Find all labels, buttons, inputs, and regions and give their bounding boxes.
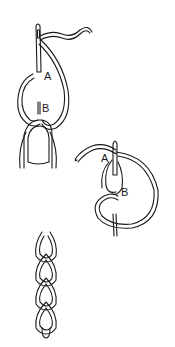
thread-loop-outer — [41, 40, 69, 129]
needle-tip-b — [113, 214, 117, 236]
figure-result-chain — [36, 232, 57, 338]
label-a: A — [101, 152, 109, 164]
label-a: A — [44, 70, 52, 82]
needle-tip-b — [38, 102, 40, 114]
thread-tail — [40, 27, 92, 36]
figure-step-1: A B — [18, 24, 92, 168]
chain-link — [36, 232, 57, 262]
label-b: B — [42, 102, 49, 114]
figure-step-2: A B — [75, 141, 158, 236]
needle-icon — [36, 24, 41, 72]
chain-stitch-diagram: A B A B — [0, 0, 175, 347]
needle-icon — [113, 141, 117, 175]
label-b: B — [121, 186, 128, 198]
